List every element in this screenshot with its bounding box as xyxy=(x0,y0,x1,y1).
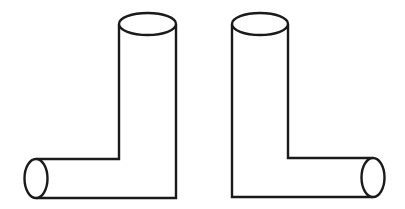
right-pipe-top-opening xyxy=(232,13,288,35)
diagram-canvas xyxy=(0,0,405,209)
left-pipe-top-opening xyxy=(119,13,176,35)
left-pipe-outline xyxy=(36,24,176,198)
right-pipe-end-opening xyxy=(362,158,385,197)
right-pipe-outline xyxy=(232,24,373,197)
left-pipe xyxy=(25,13,177,198)
right-pipe xyxy=(232,13,385,197)
pipes-diagram xyxy=(0,0,405,209)
left-pipe-end-opening xyxy=(25,159,48,198)
